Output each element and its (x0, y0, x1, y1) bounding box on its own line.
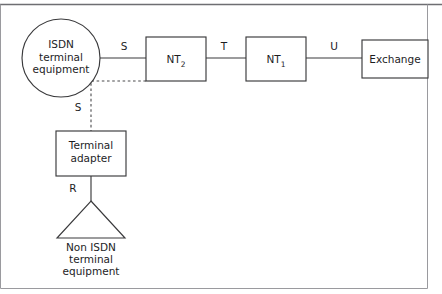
nt2-label-subscript: 2 (181, 60, 186, 69)
exchange-label: Exchange (369, 53, 420, 65)
dashed-link-nt2-to-terminal-adapter (91, 81, 146, 131)
nt1-label-subscript: 1 (281, 60, 286, 69)
diagram-canvas: ISDN terminal equipment NT2 NT1 Exchange… (0, 0, 442, 294)
nt1-label-base: NT (266, 53, 281, 65)
interface-label-u: U (330, 40, 338, 52)
non-isdn-te-label-line-2: terminal (69, 253, 113, 265)
interface-label-s-branch: S (75, 101, 82, 113)
interface-label-s-top: S (121, 40, 128, 52)
isdn-te-label-line-2: terminal (39, 51, 83, 63)
node-non-isdn-terminal-equipment (57, 201, 125, 238)
terminal-adapter-label-line-2: adapter (70, 152, 112, 164)
isdn-te-label-line-1: ISDN (48, 38, 74, 50)
non-isdn-te-label-line-3: equipment (63, 265, 120, 277)
terminal-adapter-label-line-1: Terminal (68, 139, 113, 151)
interface-label-r: R (69, 182, 76, 194)
isdn-reference-configuration-diagram: ISDN terminal equipment NT2 NT1 Exchange… (0, 0, 442, 294)
isdn-te-label-line-3: equipment (33, 63, 90, 75)
interface-label-t: T (220, 40, 228, 52)
nt2-label-base: NT (166, 53, 181, 65)
non-isdn-te-label-line-1: Non ISDN (66, 241, 116, 253)
